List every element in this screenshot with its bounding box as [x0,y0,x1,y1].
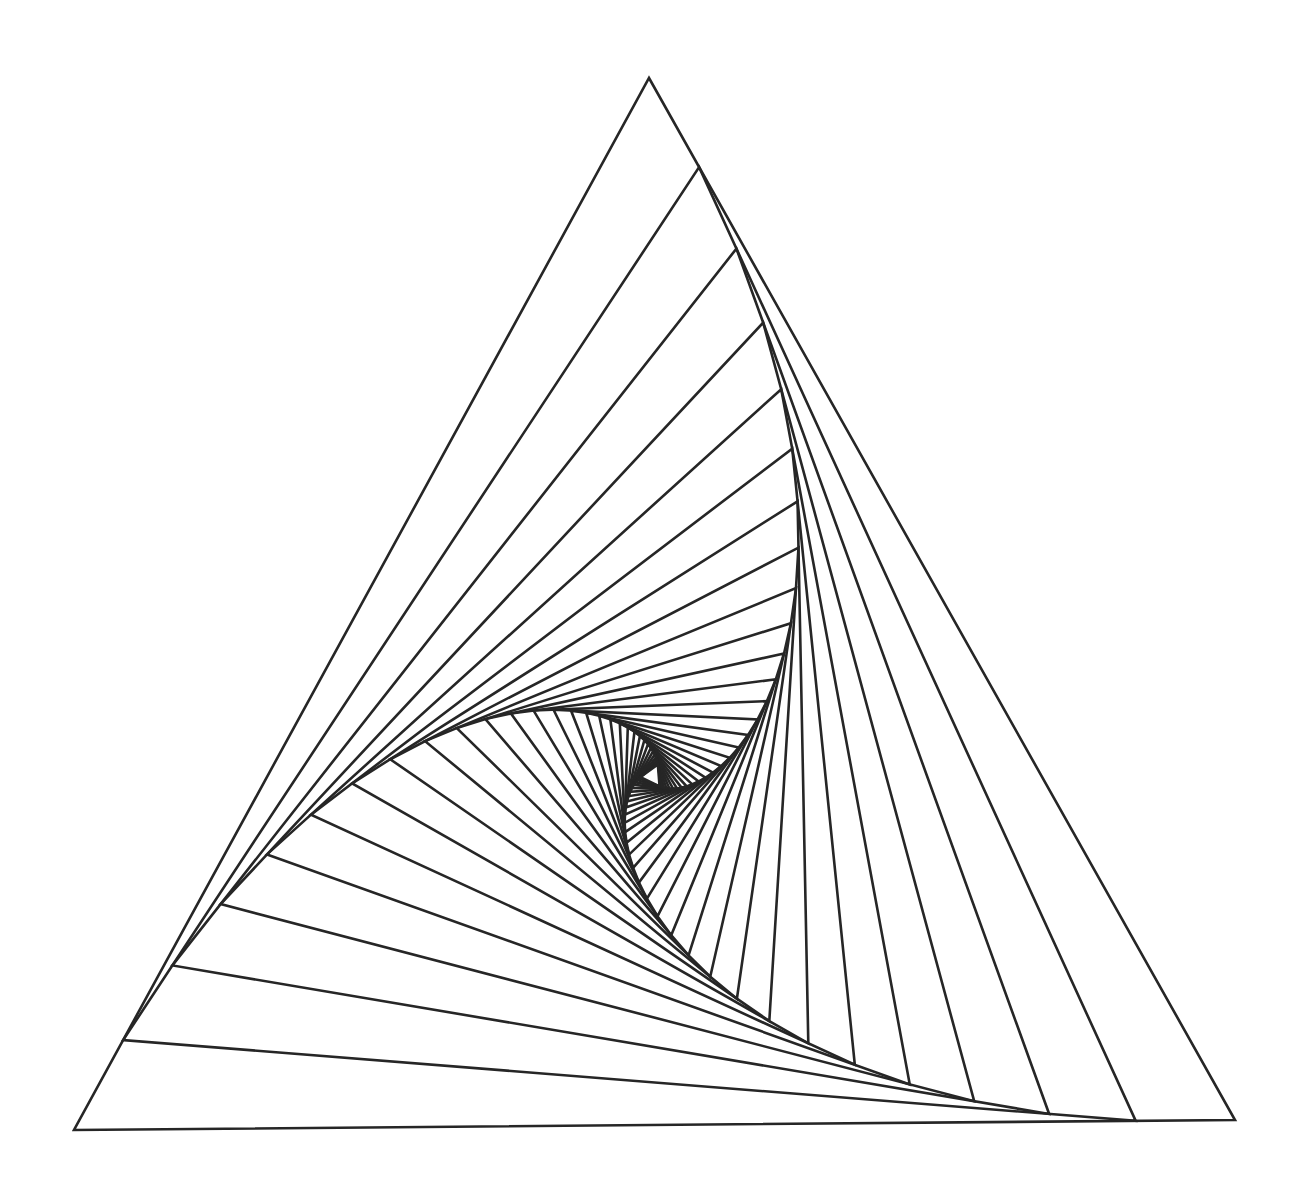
canvas-background [0,0,1307,1193]
spiral-figure: Nested Rotating Triangle Spiral [0,0,1307,1193]
artboard: Nested Rotating Triangle Spiral [0,0,1307,1193]
